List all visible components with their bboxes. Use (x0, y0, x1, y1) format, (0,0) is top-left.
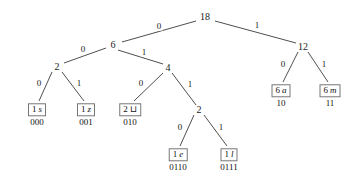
leaf-code-ll: 0111 (220, 164, 237, 173)
leaf-box-ls: 1s (28, 103, 46, 116)
tree-node-n6: 6 (110, 40, 117, 50)
leaf-weight-le: 1 (173, 150, 178, 159)
leaf-box-ll: 1l (220, 148, 237, 161)
leaf-box-lz: 1z (77, 103, 95, 116)
edge-label-n6-to-n4: 1 (141, 48, 148, 57)
leaf-code-le: 0110 (169, 164, 187, 173)
tree-node-n2b: 2 (196, 105, 203, 115)
edge-label-n12-to-la: 0 (280, 60, 287, 69)
leaf-symbol-letter-s: s (38, 105, 42, 114)
tree-leaf-lb: 2⊔010 (119, 103, 141, 116)
edge-label-root-to-n12: 1 (254, 21, 261, 30)
leaf-code-ls: 000 (30, 119, 44, 128)
edge-label-n2a-to-lz: 1 (76, 79, 83, 88)
tree-node-n12: 12 (297, 42, 309, 52)
leaf-weight-lz: 1 (81, 105, 86, 114)
huffman-tree-figure: 010101010101186122421s0001z0012⊔0101e011… (0, 0, 357, 186)
tree-node-root: 18 (199, 12, 211, 22)
leaf-weight-ls: 1 (32, 105, 37, 114)
leaf-symbol-letter-a: a (282, 86, 287, 95)
tree-node-n4: 4 (165, 63, 172, 73)
leaf-code-lb: 010 (123, 119, 137, 128)
leaf-box-le: 1e (169, 148, 188, 161)
tree-leaf-ll: 1l0111 (220, 148, 237, 161)
leaf-symbol-letter-z: z (87, 105, 91, 114)
leaf-code-lm: 11 (326, 100, 335, 109)
edge-label-n6-to-n2a: 0 (80, 45, 87, 54)
leaf-symbol-letter-l: l (231, 150, 234, 159)
tree-leaf-lz: 1z001 (77, 103, 95, 116)
tree-leaf-ls: 1s000 (28, 103, 46, 116)
tree-edge-n4-to-n2b (172, 73, 196, 105)
edge-label-n4-to-lb: 0 (138, 79, 145, 88)
tree-leaf-lm: 6m11 (320, 84, 341, 97)
leaf-symbol-blank-space: ⊔ (130, 105, 137, 114)
leaf-weight-lm: 6 (324, 86, 329, 95)
leaf-weight-lb: 2 (123, 105, 128, 114)
leaf-box-la: 6a (272, 84, 291, 97)
edge-label-n12-to-lm: 1 (321, 60, 328, 69)
tree-leaf-la: 6a10 (272, 84, 291, 97)
edge-label-n2b-to-le: 0 (177, 123, 184, 132)
edge-label-n2a-to-ls: 0 (36, 79, 43, 88)
edge-label-n4-to-n2b: 1 (187, 80, 194, 89)
leaf-code-la: 10 (277, 100, 286, 109)
edge-label-root-to-n6: 0 (156, 22, 163, 31)
leaf-weight-ll: 1 (224, 150, 229, 159)
edge-label-n2b-to-ll: 1 (218, 123, 225, 132)
leaf-weight-la: 6 (276, 86, 281, 95)
tree-node-n2a: 2 (54, 62, 61, 72)
tree-leaf-le: 1e0110 (169, 148, 188, 161)
leaf-box-lb: 2⊔ (119, 103, 141, 116)
leaf-code-lz: 001 (79, 119, 93, 128)
leaf-symbol-letter-m: m (330, 86, 337, 95)
leaf-symbol-letter-e: e (179, 150, 183, 159)
leaf-box-lm: 6m (320, 84, 341, 97)
